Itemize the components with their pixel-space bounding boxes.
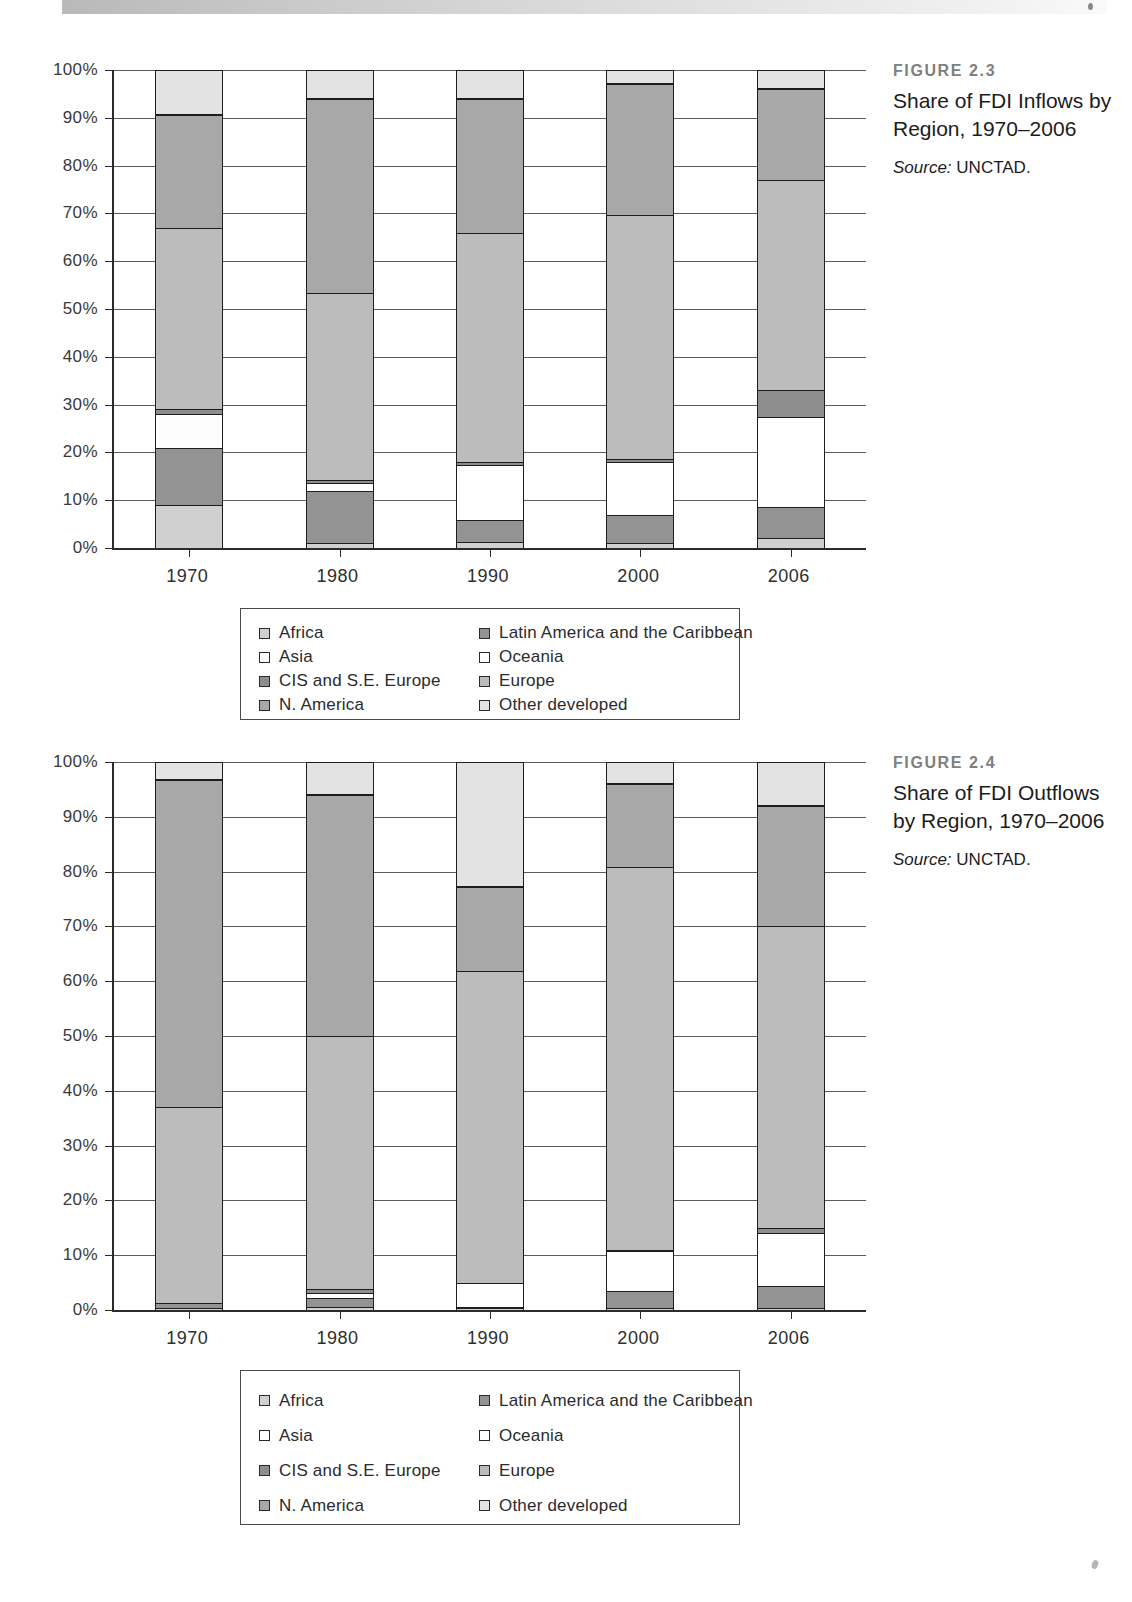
y-axis-tick [105,872,114,873]
bar-segment [155,1308,223,1310]
bar-segment [757,507,825,538]
legend-swatch-cis [259,1465,270,1476]
scan-speck-bottom [1091,1559,1100,1570]
bar-segment [306,1289,374,1293]
figure-caption: FIGURE 2.3Share of FDI Inflows by Region… [893,62,1125,178]
bar-segment [456,762,524,887]
figure-title: Share of FDI Inflows by Region, 1970–200… [893,87,1125,142]
bar-segment [306,99,374,294]
legend-column: AfricaAsiaCIS and S.E. EuropeN. America [259,1383,441,1523]
y-axis-tick-label: 20% [0,442,98,462]
figure-source: Source: UNCTAD. [893,850,1125,870]
y-axis-tick-label: 0% [0,1300,98,1320]
x-axis-tick-label: 2000 [617,1328,659,1349]
x-axis-tick-label: 1990 [467,1328,509,1349]
legend-label: Other developed [499,695,628,715]
bar-segment [155,115,223,227]
legend-label: Oceania [499,647,564,667]
y-axis-tick-label: 40% [0,347,98,367]
x-axis-tick [189,1310,190,1319]
legend-label: N. America [279,695,364,715]
y-axis-tick [105,357,114,358]
bar-segment [456,233,524,462]
x-axis-tick-label: 1980 [317,566,359,587]
bar-segment [606,762,674,784]
y-axis-tick-label: 50% [0,299,98,319]
bar-segment [606,459,674,462]
legend-label: CIS and S.E. Europe [279,671,441,691]
bar-segment [306,762,374,795]
bar-segment [155,70,223,115]
bar-segment [456,520,524,542]
legend-swatch-latin_america [479,1395,490,1406]
bar-segment [306,483,374,490]
bar-segment [606,84,674,214]
bar-segment [606,70,674,84]
figure-caption: FIGURE 2.4Share of FDI Outflows by Regio… [893,754,1125,870]
bar-segment [606,515,674,544]
legend-item-africa: Africa [259,621,441,645]
legend-label: Asia [279,647,313,667]
bar-segment [155,780,223,1107]
bar-segment [757,180,825,390]
y-axis-tick-label: 60% [0,251,98,271]
y-axis-tick-label: 60% [0,971,98,991]
legend-swatch-asia [259,1430,270,1441]
bar-segment [606,1308,674,1310]
y-axis-tick [105,762,114,763]
y-axis-tick [105,452,114,453]
legend-column: Latin America and the CaribbeanOceaniaEu… [479,1383,753,1523]
y-axis-tick [105,500,114,501]
bar-segment [757,806,825,927]
x-axis-tick [189,548,190,557]
x-axis-tick-label: 1970 [166,1328,208,1349]
x-axis-tick [340,1310,341,1319]
y-axis-tick-label: 90% [0,108,98,128]
bar-segment [306,1036,374,1289]
source-value: UNCTAD. [956,158,1030,177]
legend-item-other_developed: Other developed [479,1488,753,1523]
legend-item-n_america: N. America [259,1488,441,1523]
y-axis-tick [105,405,114,406]
legend-item-africa: Africa [259,1383,441,1418]
stacked-bar [456,762,524,1310]
y-axis-tick [105,1200,114,1201]
y-axis-tick-label: 40% [0,1081,98,1101]
bar-segment [757,926,825,1227]
figure-number: FIGURE 2.3 [893,62,1125,80]
bar-segment [757,1233,825,1286]
bar-segment [606,1250,674,1252]
legend-column: Latin America and the CaribbeanOceaniaEu… [479,621,753,717]
y-axis-tick-label: 30% [0,395,98,415]
y-axis-tick-label: 20% [0,1190,98,1210]
bar-segment [606,1251,674,1290]
bar-segment [155,1303,223,1308]
stacked-bar [155,70,223,548]
x-axis-tick-label: 2006 [768,1328,810,1349]
y-axis-tick-label: 50% [0,1026,98,1046]
legend-label: Latin America and the Caribbean [499,1391,753,1411]
legend-swatch-africa [259,628,270,639]
bar-segment [456,99,524,233]
legend-swatch-other_developed [479,700,490,711]
y-axis-tick-label: 70% [0,203,98,223]
bar-segment [306,491,374,544]
bar-segment [155,409,223,414]
stacked-bar [606,762,674,1310]
bar-segment [306,1307,374,1310]
bar-segment [757,1286,825,1308]
legend-swatch-n_america [259,1500,270,1511]
bar-segment [456,462,524,464]
legend-swatch-europe [479,1465,490,1476]
scan-artifact-band [62,0,1107,14]
bar-segment [155,448,223,505]
legend-swatch-oceania [479,1430,490,1441]
bar-segment [306,543,374,548]
x-axis-tick [340,548,341,557]
legend-label: Europe [499,671,555,691]
bar-segment [757,70,825,89]
stacked-bar [155,762,223,1310]
y-axis-tick-label: 0% [0,538,98,558]
legend-swatch-other_developed [479,1500,490,1511]
scan-speck [1088,3,1093,10]
